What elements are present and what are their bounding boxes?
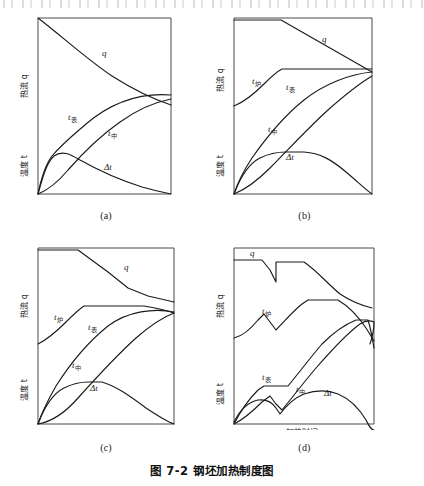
curve-delta-t [38, 382, 174, 424]
curve-t-surface [38, 95, 171, 194]
panel-caption-c: (c) [16, 442, 196, 453]
axis-label-temperature: 温度 t [19, 155, 29, 177]
curve-q [234, 260, 372, 308]
curve-delta-t [234, 152, 372, 194]
label-t-furnace: t炉 [54, 312, 63, 324]
axis-label-temperature: 温度 t [19, 379, 29, 401]
label-delta-t: Δt [323, 388, 332, 398]
axis-label-time: 加热时间 τ [286, 427, 326, 430]
axis-label-heat-flux: 热流 q [19, 294, 29, 318]
panel-d-plot: 热流 q 温度 t q t炉 t表 t中 [212, 244, 397, 430]
label-q: q [250, 248, 255, 258]
curve-t-furnace [234, 300, 374, 341]
label-t-center: t中 [108, 128, 117, 140]
curve-q [234, 20, 372, 72]
curve-t-furnace [38, 306, 174, 344]
plot-frame [234, 18, 372, 194]
label-t-furnace: t炉 [262, 306, 271, 318]
label-t-surface: t表 [68, 112, 77, 124]
axis-label-heat-flux: 热流 q [215, 68, 225, 92]
curve-q [38, 18, 171, 105]
curve-t-center [234, 321, 374, 424]
panel-c: 热流 q 温度 t q t炉 t表 t中 [16, 244, 196, 430]
panel-caption-a: (a) [16, 210, 196, 221]
axis-label-temperature: 温度 t [215, 155, 225, 177]
panel-b: 热流 q 温度 t q t炉 t表 t中 [212, 14, 397, 200]
label-delta-t: Δt [103, 162, 112, 172]
axis-label-temperature: 温度 t [215, 383, 225, 405]
panel-caption-d: (d) [212, 442, 397, 453]
label-delta-t: Δt [89, 383, 98, 393]
panel-a-plot: 热流 q 温度 t q t表 t中 Δt [16, 14, 196, 200]
axis-label-heat-flux: 热流 q [19, 74, 29, 98]
label-t-surface: t表 [286, 82, 295, 94]
label-q: q [124, 262, 129, 272]
panel-caption-b: (b) [212, 210, 397, 221]
curve-t-center [38, 99, 171, 194]
label-q: q [322, 34, 327, 44]
label-delta-t: Δt [285, 152, 294, 162]
panel-c-plot: 热流 q 温度 t q t炉 t表 t中 [16, 244, 196, 430]
panel-d: 热流 q 温度 t q t炉 t表 t中 [212, 244, 397, 430]
label-t-surface: t表 [262, 372, 271, 384]
label-t-furnace: t炉 [252, 76, 261, 88]
curve-q [38, 250, 174, 302]
label-t-center: t中 [296, 384, 305, 396]
curve-delta-t [38, 153, 171, 194]
axis-label-heat-flux: 热流 q [215, 294, 225, 318]
panel-b-plot: 热流 q 温度 t q t炉 t表 t中 [212, 14, 397, 200]
panel-a: 热流 q 温度 t q t表 t中 Δt [16, 14, 196, 200]
plot-frame [234, 248, 374, 424]
label-q: q [102, 48, 107, 58]
label-t-surface: t表 [88, 322, 97, 334]
figure-caption: 图 7-2 钢坯加热制度图 [0, 462, 424, 478]
plot-frame [38, 248, 174, 424]
figure-root: 热流 q 温度 t q t表 t中 Δt [0, 0, 424, 486]
label-t-center: t中 [72, 360, 81, 372]
